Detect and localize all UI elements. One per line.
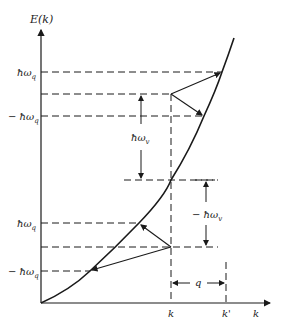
- label-neg-hw-q-lower: − ħωq: [8, 266, 39, 280]
- label-neg-hw-v: − ħωv: [192, 209, 222, 223]
- upper-transitions: [171, 73, 220, 115]
- label-hw-q-lower: ħωq: [17, 218, 37, 232]
- absorption-arrow-upper: [171, 73, 220, 94]
- label-hw-q-upper: ħωq: [17, 67, 37, 81]
- absorption-arrow-lower: [141, 225, 171, 247]
- energy-dispersion-diagram: E(k) ħωq − ħωq ħωq − ħωq ħωv − ħωv q k k…: [0, 0, 283, 329]
- dashed-levels: [41, 72, 222, 271]
- label-hw-v: ħωv: [131, 132, 150, 146]
- axes: [41, 30, 270, 303]
- dashed-verticals: [171, 94, 226, 303]
- emission-arrow-upper: [171, 94, 202, 115]
- tick-k-prime: k': [222, 308, 231, 319]
- x-axis-label: k: [253, 308, 259, 319]
- y-axis-label: E(k): [29, 13, 53, 26]
- label-q: q: [195, 277, 201, 288]
- label-neg-hw-q-upper: − ħωq: [8, 111, 39, 125]
- dispersion-curve: [41, 38, 234, 303]
- tick-k: k: [168, 308, 174, 319]
